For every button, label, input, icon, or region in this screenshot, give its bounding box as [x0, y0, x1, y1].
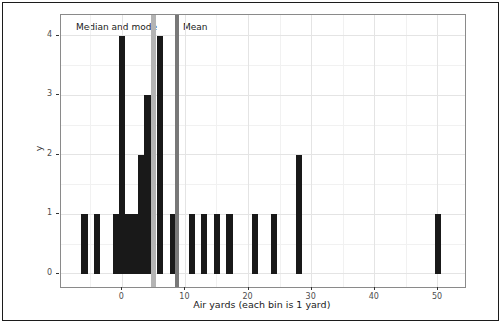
y-tick-mark — [56, 94, 60, 95]
x-tick-label: 10 — [172, 292, 196, 301]
x-major-gridline — [185, 15, 186, 287]
x-tick-label: 40 — [362, 292, 386, 301]
y-tick-label: 0 — [30, 268, 52, 278]
histogram-bar — [296, 155, 302, 274]
x-tick-mark — [248, 287, 249, 291]
histogram-bar — [252, 214, 258, 274]
median-mode-annotation: Median and mode — [76, 22, 157, 32]
x-tick-mark — [121, 287, 122, 291]
y-tick-label: 3 — [30, 89, 52, 99]
y-tick-label: 4 — [30, 30, 52, 40]
histogram-bar — [435, 214, 441, 274]
y-tick-mark — [56, 273, 60, 274]
mean-line — [175, 15, 179, 287]
x-tick-mark — [184, 287, 185, 291]
x-minor-gridline — [406, 15, 407, 287]
y-tick-mark — [56, 154, 60, 155]
y-tick-mark — [56, 213, 60, 214]
x-tick-label: 20 — [236, 292, 260, 301]
x-minor-gridline — [280, 15, 281, 287]
histogram-bar — [271, 214, 277, 274]
histogram-bar — [201, 214, 207, 274]
median-mode-line — [151, 15, 156, 287]
histogram-bar — [189, 214, 195, 274]
x-tick-mark — [311, 287, 312, 291]
histogram-bar — [226, 214, 232, 274]
x-axis-title: Air yards (each bin is 1 yard) — [60, 299, 464, 310]
histogram-bar — [157, 36, 163, 274]
histogram-bar — [144, 95, 150, 274]
y-tick-mark — [56, 35, 60, 36]
x-tick-label: 0 — [109, 292, 133, 301]
x-tick-mark — [374, 287, 375, 291]
x-major-gridline — [311, 15, 312, 287]
figure-canvas: Median and mode Mean Air yards (each bin… — [0, 0, 502, 325]
y-tick-label: 1 — [30, 208, 52, 218]
y-tick-label: 2 — [30, 149, 52, 159]
x-tick-label: 50 — [425, 292, 449, 301]
x-minor-gridline — [90, 15, 91, 287]
x-tick-label: 30 — [299, 292, 323, 301]
histogram-bar — [81, 214, 87, 274]
x-major-gridline — [248, 15, 249, 287]
x-major-gridline — [374, 15, 375, 287]
histogram-bar — [214, 214, 220, 274]
plot-panel: Median and mode Mean — [60, 14, 466, 288]
histogram-bar — [94, 214, 100, 274]
x-minor-gridline — [343, 15, 344, 287]
x-tick-mark — [437, 287, 438, 291]
mean-annotation: Mean — [183, 22, 208, 32]
